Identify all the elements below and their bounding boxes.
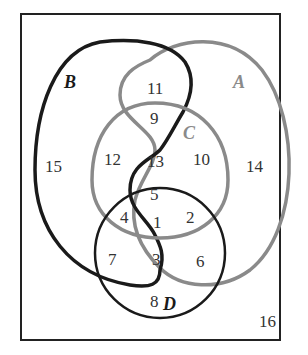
set-label-a: A — [232, 72, 245, 92]
set-label-b: B — [63, 72, 76, 92]
region-4: 4 — [120, 208, 129, 227]
set-label-d: D — [162, 294, 176, 314]
region-16: 16 — [259, 312, 276, 331]
region-7: 7 — [108, 250, 117, 269]
region-11: 11 — [147, 79, 163, 98]
region-6: 6 — [196, 252, 205, 271]
region-13: 13 — [147, 152, 164, 171]
region-1: 1 — [153, 213, 162, 232]
region-3: 3 — [152, 250, 161, 269]
region-5: 5 — [150, 185, 159, 204]
region-10: 10 — [193, 150, 210, 169]
set-label-c: C — [183, 123, 196, 143]
region-14: 14 — [246, 157, 264, 176]
region-12: 12 — [104, 150, 121, 169]
venn-diagram: B A C D 11 9 12 13 10 15 14 5 4 1 2 7 3 … — [0, 0, 308, 355]
region-2: 2 — [186, 208, 195, 227]
region-8: 8 — [150, 292, 159, 311]
region-15: 15 — [45, 157, 62, 176]
region-9: 9 — [150, 109, 159, 128]
